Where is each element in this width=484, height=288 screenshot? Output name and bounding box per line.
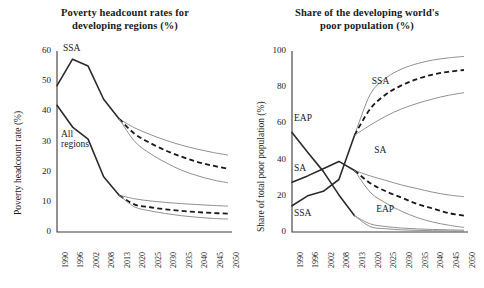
- x-tick-1990: 1990: [296, 252, 305, 268]
- x-tick-2035: 2035: [185, 252, 194, 268]
- y-tick-10: 10: [23, 196, 51, 206]
- x-tick-2025: 2025: [389, 252, 398, 268]
- x-tick-2025: 2025: [154, 252, 163, 268]
- series-eap-projection-upper: [355, 216, 464, 230]
- x-tick-1996: 1996: [76, 252, 85, 268]
- annotation-ssa-top: SSA: [372, 76, 389, 86]
- annotation-ssa-bottom: SSA: [294, 208, 311, 218]
- series-all-regions-historical: [57, 105, 119, 195]
- annotation-sa-right: SA: [374, 145, 386, 155]
- x-tick-2045: 2045: [216, 252, 225, 268]
- y-tick-80: 80: [258, 81, 286, 91]
- y-tick-0: 0: [23, 226, 51, 236]
- y-axis-label-right: Share of total poor population (%): [256, 101, 266, 232]
- annotation-eap-right: EAP: [376, 204, 394, 214]
- series-ssa-historical: [57, 59, 119, 119]
- annotation-ssa-left: SSA: [63, 43, 80, 53]
- x-tick-2040: 2040: [436, 252, 445, 268]
- x-tick-2050: 2050: [468, 252, 477, 268]
- x-tick-2002: 2002: [327, 252, 336, 268]
- y-tick-60: 60: [23, 45, 51, 55]
- chart-panel-right: Share of the developing world's poor pop…: [242, 0, 484, 288]
- series-sa-projection-lower: [355, 170, 464, 227]
- y-tick-50: 50: [23, 75, 51, 85]
- annotation-sa-left: SA: [294, 163, 306, 173]
- x-tick-2020: 2020: [138, 252, 147, 268]
- x-tick-2050: 2050: [232, 252, 241, 268]
- x-tick-2030: 2030: [169, 252, 178, 268]
- annotation-all-regions-line1: All: [61, 129, 89, 139]
- figure-root: Poverty headcount rates for developing r…: [0, 0, 484, 288]
- x-tick-2020: 2020: [374, 252, 383, 268]
- x-tick-2008: 2008: [107, 252, 116, 268]
- y-tick-30: 30: [23, 136, 51, 146]
- y-tick-20: 20: [23, 166, 51, 176]
- series-eap-historical: [292, 132, 355, 215]
- x-tick-2008: 2008: [342, 252, 351, 268]
- x-tick-2013: 2013: [358, 252, 367, 268]
- x-tick-2045: 2045: [452, 252, 461, 268]
- plot-area-right: [242, 0, 484, 288]
- chart-panel-left: Poverty headcount rates for developing r…: [0, 0, 242, 288]
- series-all-regions-projection-central: [119, 195, 228, 213]
- y-tick-100: 100: [258, 45, 286, 55]
- annotation-all-regions: All regions: [61, 129, 89, 149]
- x-tick-2035: 2035: [421, 252, 430, 268]
- annotation-all-regions-line2: regions: [61, 139, 89, 149]
- series-ssa-projection-lower: [355, 93, 464, 136]
- x-tick-1990: 1990: [61, 252, 70, 268]
- x-tick-2030: 2030: [405, 252, 414, 268]
- y-tick-40: 40: [23, 105, 51, 115]
- x-tick-2013: 2013: [123, 252, 132, 268]
- annotation-eap-left: EAP: [294, 113, 312, 123]
- x-tick-1996: 1996: [311, 252, 320, 268]
- plot-svg-right: [242, 0, 484, 288]
- x-tick-2040: 2040: [200, 252, 209, 268]
- x-tick-2002: 2002: [92, 252, 101, 268]
- series-ssa-projection-upper: [119, 119, 228, 155]
- series-ssa-projection-central: [119, 119, 228, 169]
